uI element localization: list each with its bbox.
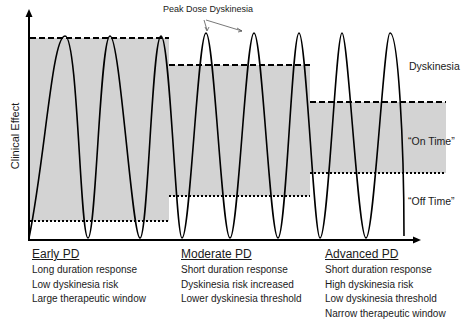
off-time-label: “Off Time” (408, 195, 454, 207)
stage-item: Low dyskinesia risk (32, 278, 146, 293)
stage-item: High dyskinesia risk (325, 278, 446, 293)
stage-item: Short duration response (325, 263, 446, 278)
stage-advanced-pd: Advanced PD Short duration response High… (325, 246, 446, 321)
stage-title: Early PD (32, 246, 146, 262)
stage-item: Large therapeutic window (32, 292, 146, 307)
stage-moderate-pd: Moderate PD Short duration response Dysk… (181, 246, 302, 307)
stage-title: Moderate PD (181, 246, 302, 262)
stage-item: Narrow therapeutic window (325, 307, 446, 322)
stage-item: Dyskinesia risk increased (181, 278, 302, 293)
stage-item: Low dyskinesia threshold (325, 292, 446, 307)
stage-item: Long duration response (32, 263, 146, 278)
stage-title: Advanced PD (325, 246, 446, 262)
stage-item: Lower dyskinesia threshold (181, 292, 302, 307)
peak-annotation-arrows (204, 20, 242, 32)
y-axis-label: Clinical Effect (9, 91, 21, 181)
peak-dose-label: Peak Dose Dyskinesia (163, 4, 253, 14)
stage-early-pd: Early PD Long duration response Low dysk… (32, 246, 146, 307)
on-time-label: “On Time” (408, 135, 455, 147)
stage-item: Short duration response (181, 263, 302, 278)
dyskinesia-zone-label: Dyskinesia (409, 60, 460, 72)
